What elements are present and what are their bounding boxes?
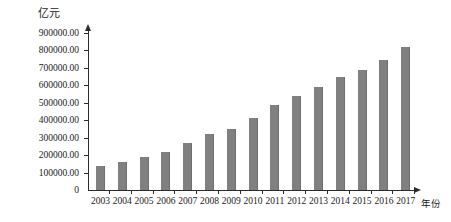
y-axis-tick-label: 300000.00 xyxy=(39,133,79,143)
y-axis-tick xyxy=(84,50,89,51)
y-axis-tick-label: 900000.00 xyxy=(39,28,79,38)
x-axis-tick xyxy=(196,190,197,194)
bar xyxy=(161,152,170,190)
x-axis-tick-label: 2008 xyxy=(200,196,219,206)
x-axis-tick xyxy=(109,190,110,194)
bar xyxy=(292,96,301,190)
x-axis-tick xyxy=(153,190,154,194)
x-axis-tick xyxy=(371,190,372,194)
y-axis-tick xyxy=(84,173,89,174)
bar xyxy=(358,70,367,190)
x-axis-tick xyxy=(283,190,284,194)
bar xyxy=(249,118,258,190)
y-axis-tick xyxy=(84,33,89,34)
x-axis-tick-label: 2010 xyxy=(244,196,263,206)
x-axis-tick-label: 2011 xyxy=(266,196,285,206)
x-axis-tick xyxy=(240,190,241,194)
x-axis-tick-label: 2009 xyxy=(222,196,241,206)
x-axis-tick-label: 2003 xyxy=(91,196,110,206)
x-axis-tick-label: 2017 xyxy=(396,196,415,206)
x-axis-tick-label: 2006 xyxy=(156,196,175,206)
x-axis-tick xyxy=(305,190,306,194)
x-axis-tick xyxy=(218,190,219,194)
x-axis-tick xyxy=(174,190,175,194)
bar xyxy=(183,143,192,190)
y-axis-tick-label: 700000.00 xyxy=(39,63,79,73)
x-axis-tick-label: 2016 xyxy=(374,196,393,206)
bar xyxy=(96,166,105,190)
x-axis-tick xyxy=(349,190,350,194)
bar xyxy=(227,129,236,190)
y-axis-line xyxy=(88,30,89,190)
bar xyxy=(140,157,149,190)
x-axis-tick xyxy=(327,190,328,194)
x-axis-tick xyxy=(262,190,263,194)
y-axis-tick xyxy=(84,120,89,121)
x-axis-tick-label: 2015 xyxy=(353,196,372,206)
y-axis-tick-label: 800000.00 xyxy=(39,45,79,55)
bar xyxy=(205,134,214,190)
x-axis-tick-label: 2013 xyxy=(309,196,328,206)
y-axis-tick-label: 200000.00 xyxy=(39,150,79,160)
y-axis-tick xyxy=(84,155,89,156)
y-axis-tick xyxy=(84,68,89,69)
y-axis-tick-label: 600000.00 xyxy=(39,80,79,90)
x-axis-tick-label: 2004 xyxy=(113,196,132,206)
x-axis-line xyxy=(88,190,415,191)
bar xyxy=(401,47,410,190)
y-axis-tick-label: 400000.00 xyxy=(39,115,79,125)
x-axis-tick xyxy=(131,190,132,194)
x-axis-tick xyxy=(392,190,393,194)
x-axis-tick-label: 2014 xyxy=(331,196,350,206)
bar xyxy=(314,87,323,190)
x-axis-tick-label: 2007 xyxy=(178,196,197,206)
bar xyxy=(118,162,127,190)
y-axis-tick xyxy=(84,85,89,86)
x-axis-tick xyxy=(414,190,415,194)
x-axis-tick-label: 2005 xyxy=(135,196,154,206)
bar xyxy=(336,77,345,190)
y-axis-tick-label: 100000.00 xyxy=(39,168,79,178)
y-axis-tick-label: 0 xyxy=(74,185,79,195)
x-axis-title: 年份 xyxy=(421,196,441,210)
plot-area: 0100000.00200000.00300000.00400000.00500… xyxy=(0,0,451,222)
y-axis-tick xyxy=(84,103,89,104)
bar xyxy=(379,60,388,190)
y-axis-arrow-icon xyxy=(85,24,91,31)
chart-screenshot: 亿元 0100000.00200000.00300000.00400000.00… xyxy=(0,0,451,222)
y-axis-tick xyxy=(84,138,89,139)
bar xyxy=(270,105,279,190)
y-axis-tick-label: 500000.00 xyxy=(39,98,79,108)
x-axis-tick-label: 2012 xyxy=(287,196,306,206)
